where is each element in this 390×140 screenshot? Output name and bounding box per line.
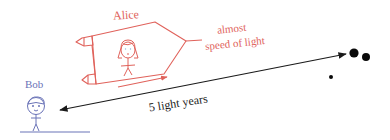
star-small [329, 75, 333, 79]
speed-label-line1: almost [216, 21, 246, 36]
twin-paradox-diagram: Alice almost speed of light Bob 5 light … [0, 0, 390, 140]
speed-label-line2: speed of light [205, 34, 266, 52]
alice-hair [118, 40, 138, 58]
alice-spaceship [76, 22, 202, 84]
ship-thruster-bottom [82, 74, 96, 84]
distance-label: 5 light years [148, 91, 209, 114]
bob-figure [20, 97, 90, 132]
alice-label: Alice [112, 7, 139, 23]
bob-label: Bob [25, 78, 44, 90]
star-medium [362, 53, 370, 61]
ship-antenna [186, 40, 202, 41]
ship-hull [92, 22, 186, 84]
destination-stars [329, 48, 370, 79]
alice-figure [118, 40, 138, 76]
velocity-arrow [118, 77, 167, 87]
star-large [349, 48, 358, 57]
